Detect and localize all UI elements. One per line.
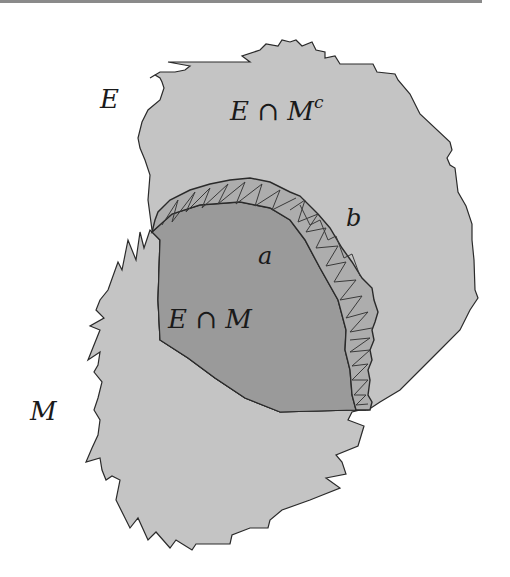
label-b: b (346, 204, 361, 232)
label-a: a (258, 242, 272, 270)
label-E-cap-M: E ∩ M (167, 304, 253, 334)
label-E-cap-Mc: E ∩ Mc (229, 92, 324, 126)
label-M: M (29, 396, 58, 426)
label-E: E (99, 84, 119, 114)
label-E-cap-Mc-superscript: c (314, 92, 324, 112)
set-diagram: E M E ∩ Mc E ∩ M a b (0, 0, 510, 577)
label-E-cap-Mc-base: E ∩ M (229, 96, 315, 126)
